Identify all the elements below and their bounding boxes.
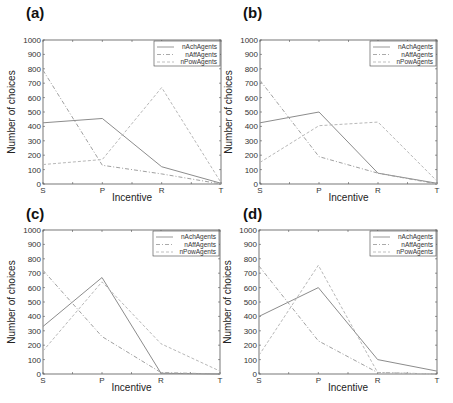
y-tick-label: 700 <box>244 269 258 278</box>
y-tick-label: 400 <box>244 312 258 321</box>
x-tick-label: T <box>435 376 440 385</box>
x-tick-label: P <box>316 376 321 385</box>
y-tick-label: 900 <box>244 240 258 249</box>
y-tick-label: 600 <box>244 284 258 293</box>
legend: nAchAgentsnAffAgentsnPowAgents <box>370 231 436 256</box>
legend-label: nPowAgents <box>397 248 434 256</box>
line-chart: 01002003004005006007008009001000SPRTInce… <box>0 0 453 403</box>
y-tick-label: 200 <box>244 341 258 350</box>
y-axis-title: Number of choices <box>222 260 233 343</box>
x-tick-label: R <box>375 376 381 385</box>
y-tick-label: 1000 <box>239 226 257 235</box>
x-tick-label: S <box>256 376 261 385</box>
y-tick-label: 300 <box>244 327 258 336</box>
y-tick-label: 100 <box>244 356 258 365</box>
chart-panel-d: (d) 01002003004005006007008009001000SPRT… <box>0 0 453 403</box>
y-tick-label: 500 <box>244 298 258 307</box>
x-axis-title: Incentive <box>328 382 368 393</box>
y-tick-label: 800 <box>244 255 258 264</box>
